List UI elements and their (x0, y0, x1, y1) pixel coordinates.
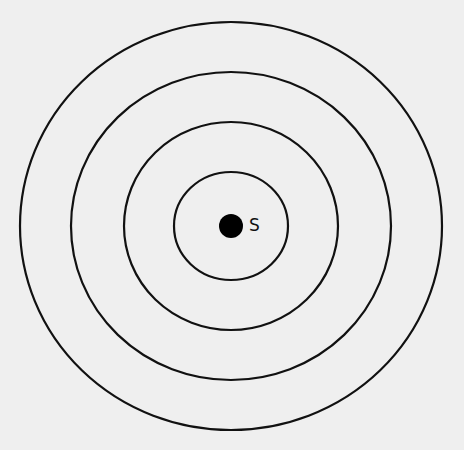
wavefront-diagram: S (0, 0, 464, 450)
point-source-dot (219, 214, 243, 238)
wavefront-svg (0, 0, 464, 450)
source-label: S (249, 217, 260, 234)
